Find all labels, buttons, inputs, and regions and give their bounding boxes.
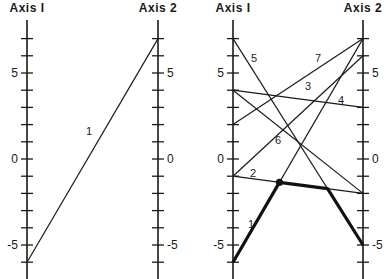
tick-label: 5 [217, 66, 224, 80]
left-panel: Axis I50-5Axis 250-51 [7, 1, 178, 279]
parallel-coordinates-diagram: Axis I50-5Axis 250-51 Axis I50-5Axis 250… [0, 0, 389, 279]
line-label-1: 1 [86, 125, 92, 137]
axis-title: Axis I [215, 1, 250, 15]
right-panel: Axis I50-5Axis 250-51234567 [213, 1, 383, 279]
line-label-3: 3 [305, 80, 311, 92]
line-1 [27, 39, 158, 263]
line-label-2: 2 [250, 167, 256, 179]
tick-label: -5 [167, 238, 178, 252]
tick-label: 0 [217, 152, 224, 166]
tick-label: 5 [167, 66, 174, 80]
tick-label: -5 [7, 238, 18, 252]
tick-label: 5 [11, 66, 18, 80]
tick-label: -5 [372, 238, 383, 252]
left-axis1: Axis I50-5 [7, 1, 44, 279]
axis-title: Axis 2 [139, 1, 177, 15]
tick-label: 0 [167, 152, 174, 166]
right-axis1: Axis I50-5 [213, 1, 250, 279]
axis-title: Axis 2 [344, 1, 382, 15]
line-label-6: 6 [275, 134, 281, 146]
line-label-4: 4 [338, 94, 344, 106]
tick-label: -5 [213, 238, 224, 252]
tick-label: 0 [11, 152, 18, 166]
line-3 [233, 56, 363, 176]
right-axis2: Axis 250-5 [344, 1, 383, 279]
tick-label: 5 [372, 66, 379, 80]
axis-title: Axis I [9, 1, 44, 15]
left-axis2: Axis 250-5 [139, 1, 178, 279]
intersection-dot [276, 179, 283, 186]
line-label-7: 7 [315, 52, 321, 64]
tick-label: 0 [372, 152, 379, 166]
line-label-5: 5 [251, 52, 257, 64]
